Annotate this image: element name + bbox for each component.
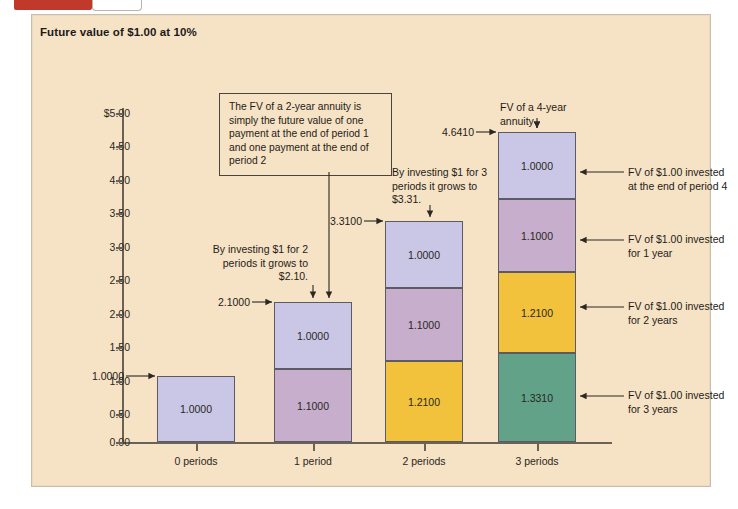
- y-tick-4: 3.00: [62, 241, 130, 253]
- bar-segment: 1.0000: [157, 376, 235, 442]
- y-tick-0: $5.00: [62, 107, 130, 119]
- bar-2-periods[interactable]: 1.0000 1.1000 1.2100: [385, 221, 463, 442]
- y-tick-10: 0.00: [62, 436, 130, 448]
- x-tick-2: [424, 443, 426, 451]
- bar-total-label-0: 1.0000: [62, 370, 124, 382]
- y-tick-2: 4.00: [62, 174, 130, 186]
- bar-total-label-1: 2.1000: [188, 296, 250, 308]
- label-4-year-annuity: FV of a 4-year annuity: [500, 101, 596, 128]
- x-tick-1: [313, 443, 315, 451]
- x-axis-label-2: 2 periods: [369, 455, 479, 467]
- bar-segment: 1.0000: [498, 132, 576, 199]
- red-tab[interactable]: [14, 0, 92, 10]
- legend-label-period-4: FV of $1.00 invested at the end of perio…: [628, 166, 732, 193]
- y-tick-1: 4.50: [62, 140, 130, 152]
- bar-0-periods[interactable]: 1.0000: [157, 376, 235, 442]
- y-tick-5: 2.50: [62, 274, 130, 286]
- legend-label-3-years: FV of $1.00 invested for 3 years: [628, 389, 732, 416]
- bar-segment: 1.1000: [274, 369, 352, 442]
- x-axis-label-1: 1 period: [258, 455, 368, 467]
- page-title: Future value of $1.00 at 10%: [40, 26, 197, 38]
- note-2-periods: By investing $1 for 2 periods it grows t…: [198, 243, 308, 284]
- bar-segment: 1.0000: [385, 221, 463, 288]
- bar-segment: 1.2100: [385, 361, 463, 442]
- y-tick-7: 1.50: [62, 341, 130, 353]
- x-axis-label-0: 0 periods: [141, 455, 251, 467]
- white-tab[interactable]: [92, 0, 142, 11]
- x-tick-0: [196, 443, 198, 451]
- screenshot-root: Future value of $1.00 at 10% $5.00 4.50 …: [0, 0, 738, 509]
- bar-total-label-3: 4.6410: [412, 126, 474, 138]
- bar-segment: 1.3310: [498, 353, 576, 442]
- y-tick-9: 0.50: [62, 408, 130, 420]
- figure-panel: [31, 14, 711, 487]
- y-tick-3: 3.50: [62, 207, 130, 219]
- note-3-periods: By investing $1 for 3 periods it grows t…: [392, 166, 488, 207]
- legend-label-1-year: FV of $1.00 invested for 1 year: [628, 233, 732, 260]
- bar-segment: 1.2100: [498, 272, 576, 353]
- bar-segment: 1.0000: [274, 302, 352, 369]
- x-tick-3: [537, 443, 539, 451]
- bar-segment: 1.1000: [385, 288, 463, 361]
- bar-1-period[interactable]: 1.0000 1.1000: [274, 302, 352, 442]
- legend-label-2-years: FV of $1.00 invested for 2 years: [628, 300, 732, 327]
- bar-segment: 1.1000: [498, 199, 576, 272]
- window-top-strip: [0, 0, 738, 12]
- bar-3-periods[interactable]: 1.0000 1.1000 1.2100 1.3310: [498, 132, 576, 442]
- x-axis-label-3: 3 periods: [482, 455, 592, 467]
- y-tick-6: 2.00: [62, 308, 130, 320]
- callout-box-annuity: The FV of a 2-year annuity is simply the…: [219, 93, 392, 176]
- bar-total-label-2: 3.3100: [300, 215, 362, 227]
